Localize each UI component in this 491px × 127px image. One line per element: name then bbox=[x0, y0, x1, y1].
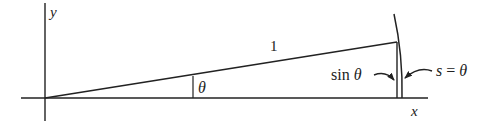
sin-theta-label: sin θ bbox=[331, 66, 362, 83]
sin-function-text: sin bbox=[331, 66, 354, 83]
radius-label: 1 bbox=[270, 38, 278, 54]
unit-circle-small-angle-diagram: y x 1 θ sin θ s = θ bbox=[0, 0, 491, 127]
y-axis-label: y bbox=[48, 4, 57, 20]
equals-sign: = bbox=[442, 62, 459, 79]
arrow-icon-arc-length bbox=[405, 70, 432, 78]
unit-circle-arc bbox=[394, 14, 402, 98]
arrow-icon-sin-theta bbox=[374, 73, 394, 80]
theta-symbol: θ bbox=[354, 66, 362, 83]
x-axis-label: x bbox=[410, 103, 418, 119]
arc-length-label: s = θ bbox=[436, 62, 467, 79]
angle-theta-label: θ bbox=[198, 79, 206, 96]
theta-symbol: θ bbox=[459, 62, 467, 79]
